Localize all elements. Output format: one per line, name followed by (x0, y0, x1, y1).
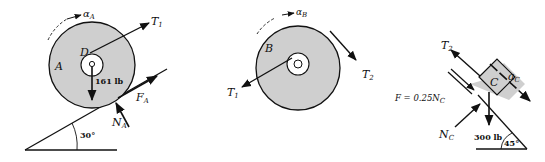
axle-a (89, 61, 94, 66)
tension-label-c: T2 (441, 39, 453, 53)
body-label-c: C (490, 76, 499, 89)
axle-b (294, 60, 302, 68)
alpha-label-a: αA (83, 8, 95, 21)
alpha-arrowhead-b (282, 13, 294, 15)
tension-arrow-c (451, 50, 480, 76)
tension2-label-b: T2 (362, 68, 374, 82)
friction-arrow-c-line2 (451, 69, 474, 90)
friction-arrow-c (448, 72, 472, 94)
alpha-arrowhead-a (67, 15, 81, 19)
body-label-b: B (264, 42, 273, 55)
figure-c: 45° C T2 F = 0.25NC aC NC 300 lb (394, 39, 530, 149)
body-label-a: A (54, 60, 63, 73)
friction-eq-c: F = 0.25NC (394, 93, 446, 105)
point-label-d: D (79, 46, 89, 59)
accel-label-c: aC (508, 70, 521, 84)
angle-label-c: 45° (504, 138, 519, 148)
alpha-label-b: αB (296, 7, 307, 19)
figure-a: 30° αA D A T1 161 lb FA NA (25, 8, 167, 150)
angle-label-a: 30° (80, 130, 95, 140)
tension1-label-b: T1 (227, 86, 239, 100)
weight-label-c: 300 lb (474, 132, 503, 142)
normal-label-c: NC (438, 128, 455, 142)
weight-label-a: 161 lb (95, 76, 124, 86)
angle-arc-a (72, 123, 77, 150)
tension-label-a: T1 (151, 15, 163, 29)
figure-b: αB B T1 T2 (227, 7, 374, 110)
friction-label-a: FA (135, 91, 149, 105)
alpha-arrow-b (257, 18, 275, 34)
free-body-diagrams: 30° αA D A T1 161 lb FA NA αB B (0, 0, 545, 162)
normal-arrow-c (455, 104, 480, 127)
